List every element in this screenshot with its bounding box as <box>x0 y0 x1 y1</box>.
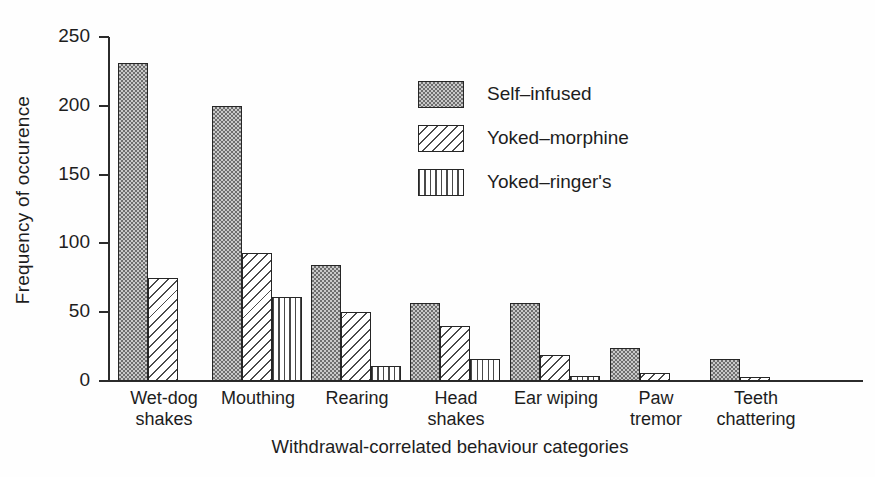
bar <box>510 303 540 381</box>
bar <box>470 359 500 381</box>
bar-group <box>311 37 401 381</box>
y-axis-title: Frequency of occurence <box>12 10 46 390</box>
y-axis-tick <box>99 36 109 38</box>
legend-swatch-vertical-lines <box>418 169 464 196</box>
y-axis-tick-label: 150 <box>30 163 90 185</box>
bar <box>640 373 670 381</box>
y-axis-tick-label: 50 <box>30 300 90 322</box>
bar <box>570 376 600 382</box>
bar-chart-figure: Frequency of occurence 250200150100500 W… <box>0 0 875 477</box>
bar <box>212 106 242 381</box>
legend-item: Yoked–ringer's <box>418 160 629 204</box>
chart-legend: Self–infusedYoked–morphineYoked–ringer's <box>418 72 629 204</box>
x-axis-category-label-line: Teeth <box>681 388 831 409</box>
bar <box>540 355 570 381</box>
legend-swatch-dots <box>418 81 464 108</box>
y-axis-tick <box>99 311 109 313</box>
y-axis-tick-label: 100 <box>30 231 90 253</box>
bar <box>118 63 148 381</box>
legend-item: Self–infused <box>418 72 629 116</box>
bar <box>242 253 272 381</box>
bar <box>341 312 371 381</box>
x-axis-category-label-line: shakes <box>89 409 239 430</box>
bar <box>311 265 341 381</box>
y-axis-tick <box>99 242 109 244</box>
x-axis-category-label: Teethchattering <box>681 388 831 430</box>
bar <box>272 297 302 381</box>
bar <box>740 377 770 381</box>
x-axis-title: Withdrawal-correlated behaviour categori… <box>150 436 750 458</box>
bar <box>148 278 178 381</box>
legend-label: Yoked–morphine <box>487 127 629 149</box>
x-axis-category-label-line: shakes <box>381 409 531 430</box>
bar <box>440 326 470 381</box>
bar-group <box>118 37 178 381</box>
legend-swatch-diagonal-hatch <box>418 125 464 152</box>
x-axis-category-label-line: chattering <box>681 409 831 430</box>
bar <box>710 359 740 381</box>
bar-group <box>212 37 302 381</box>
legend-label: Self–infused <box>487 83 592 105</box>
bar <box>371 366 401 381</box>
bar <box>410 303 440 381</box>
y-axis-tick-label: 0 <box>30 369 90 391</box>
y-axis-tick <box>99 105 109 107</box>
bar <box>610 348 640 381</box>
y-axis-tick-label: 250 <box>30 25 90 47</box>
bar-group <box>710 37 770 381</box>
legend-label: Yoked–ringer's <box>487 171 611 193</box>
y-axis-tick <box>99 174 109 176</box>
y-axis-tick-label: 200 <box>30 94 90 116</box>
legend-item: Yoked–morphine <box>418 116 629 160</box>
